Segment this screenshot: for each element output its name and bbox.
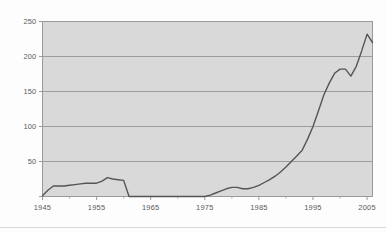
y-tick-label-250: 250 — [23, 17, 36, 26]
line-chart-plot — [0, 0, 386, 233]
figure-bottom-rule — [0, 227, 386, 228]
y-tick-label-50: 50 — [28, 157, 37, 166]
x-tick-label-1945: 1945 — [23, 203, 63, 212]
x-tick-label-1965: 1965 — [131, 203, 171, 212]
x-tick-label-1975: 1975 — [185, 203, 225, 212]
chart-figure: 50100150200250 1945195519651975198519952… — [0, 0, 386, 233]
y-tick-label-150: 150 — [23, 87, 36, 96]
x-tick-label-1985: 1985 — [239, 203, 279, 212]
x-tick-label-1955: 1955 — [77, 203, 117, 212]
y-tick-label-200: 200 — [23, 52, 36, 61]
x-tick-label-1995: 1995 — [293, 203, 333, 212]
x-tick-label-2005: 2005 — [347, 203, 386, 212]
y-tick-label-100: 100 — [23, 122, 36, 131]
plot-background — [43, 22, 373, 197]
